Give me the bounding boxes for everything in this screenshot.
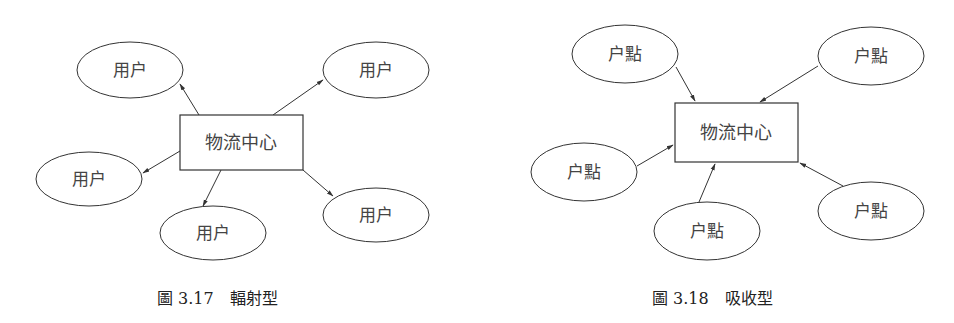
arrow-from-left bbox=[637, 145, 673, 166]
user-node-label: 用户 bbox=[359, 60, 393, 80]
arrow-to-top-left bbox=[180, 84, 199, 115]
arrow-to-left bbox=[143, 151, 180, 173]
arrow-from-bottom-right bbox=[800, 163, 843, 186]
point-node-label: 户點 bbox=[854, 46, 888, 66]
point-node-label: 户點 bbox=[690, 221, 724, 241]
arrow-to-bottom-right bbox=[303, 170, 333, 196]
point-node-label: 户點 bbox=[608, 44, 642, 64]
figure-caption-absorption: 圖 3.18 吸收型 bbox=[652, 285, 773, 309]
user-node-label: 用户 bbox=[113, 60, 147, 80]
figure-caption-radiation: 圖 3.17 輻射型 bbox=[157, 285, 278, 309]
user-node-label: 用户 bbox=[72, 169, 106, 189]
arrow-to-bottom bbox=[203, 170, 221, 206]
user-node-label: 用户 bbox=[196, 223, 230, 243]
arrow-from-top-left bbox=[676, 67, 695, 101]
user-node-label: 用户 bbox=[359, 205, 393, 225]
logistics-center-label: 物流中心 bbox=[205, 132, 277, 153]
arrow-from-top-right bbox=[760, 66, 818, 102]
figure-radiation: 物流中心 用户 用户 用户 用户 用户 bbox=[36, 42, 429, 260]
arrow-to-top-right bbox=[273, 80, 323, 115]
figure-absorption: 物流中心 户點 户點 户點 户點 户點 bbox=[531, 25, 924, 260]
point-node-label: 户點 bbox=[854, 201, 888, 221]
arrow-from-bottom bbox=[699, 164, 715, 202]
point-node-label: 户點 bbox=[567, 162, 601, 182]
logistics-center-label: 物流中心 bbox=[700, 122, 772, 143]
